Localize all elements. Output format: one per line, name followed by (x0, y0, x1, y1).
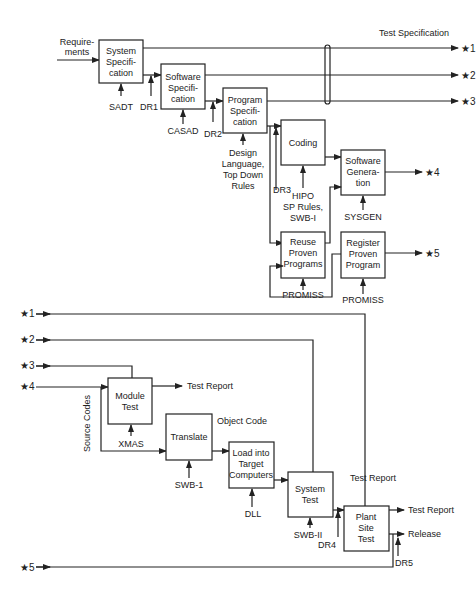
reuse-line3: Programs (283, 259, 323, 269)
module-test-line2: Test (122, 402, 139, 412)
system-test-line1: System (295, 484, 325, 494)
translate-label: Translate (170, 432, 207, 442)
module-test-line1: Module (115, 391, 145, 401)
dr1-label: DR1 (140, 102, 158, 112)
register-line2: Proven (349, 249, 378, 259)
promiss-reuse-label: PROMISS (282, 290, 324, 300)
connector-4-out: ★4 (425, 167, 440, 178)
requirements-label-2: ments (65, 47, 90, 57)
connector-1-out: ★1 (461, 43, 476, 54)
load-line1: Load into (232, 448, 269, 458)
dll-label: DLL (245, 509, 262, 519)
sadt-label: SADT (109, 102, 134, 112)
register-line1: Register (346, 238, 380, 248)
connector-3-in: ★3 (20, 360, 35, 371)
object-code-label: Object Code (217, 416, 267, 426)
promiss-register-label: PROMISS (342, 295, 384, 305)
test-specification-label: Test Specification (379, 28, 449, 38)
connector-5-out: ★5 (425, 248, 440, 259)
system-spec-line3: cation (109, 68, 133, 78)
program-spec-line3: cation (233, 117, 257, 127)
software-lifecycle-diagram: Test Specification Require- ments System… (0, 0, 476, 595)
sw-gen-line2: Genera- (346, 167, 379, 177)
load-line3: Computers (229, 470, 274, 480)
swb2-label: SWB-II (294, 530, 323, 540)
register-line3: Program (346, 260, 381, 270)
module-test-report-label: Test Report (187, 381, 234, 391)
module-test-box[interactable] (108, 378, 152, 424)
coding-label: Coding (289, 138, 318, 148)
sw-gen-line1: Software (345, 156, 381, 166)
dr5-label: DR5 (395, 558, 413, 568)
xmas-label: XMAS (118, 439, 144, 449)
program-spec-line2: Specifi- (230, 106, 260, 116)
release-label: Release (408, 529, 441, 539)
source-codes-label: Source Codes (82, 394, 92, 452)
system-spec-line1: System (106, 46, 136, 56)
hipo-line2: SP Rules, (283, 202, 323, 212)
system-spec-line2: Specifi- (106, 57, 136, 67)
software-spec-line1: Software (165, 72, 201, 82)
system-test-report-label: Test Report (350, 473, 397, 483)
plant-line1: Plant (356, 512, 377, 522)
requirements-label-1: Require- (60, 37, 95, 47)
connector-3-out: ★3 (461, 96, 476, 107)
connector-1-in: ★1 (20, 308, 35, 319)
connector-5-in: ★5 (20, 562, 35, 573)
system-test-line2: Test (302, 495, 319, 505)
plant-test-report-label: Test Report (408, 505, 455, 515)
connector-2-in: ★2 (20, 334, 35, 345)
reuse-to-gen-line (325, 187, 341, 243)
connector-4-in: ★4 (20, 381, 35, 392)
software-spec-line3: cation (171, 94, 195, 104)
reuse-line1: Reuse (290, 237, 316, 247)
design-lang-line3: Top Down (223, 170, 263, 180)
sw-gen-line3: tion (356, 178, 371, 188)
program-spec-line1: Program (228, 95, 263, 105)
plant-line3: Test (358, 534, 375, 544)
dr2-label: DR2 (204, 129, 222, 139)
dr3-label: DR3 (273, 185, 291, 195)
connector-3-to-module-line (36, 366, 132, 378)
load-line2: Target (238, 459, 264, 469)
software-spec-line2: Specifi- (168, 83, 198, 93)
hipo-line1: HIPO (292, 191, 314, 201)
design-lang-line1: Design (229, 148, 257, 158)
dr4-label: DR4 (318, 540, 336, 550)
design-lang-line2: Language, (222, 159, 265, 169)
sysgen-label: SYSGEN (344, 212, 382, 222)
design-lang-line4: Rules (231, 181, 255, 191)
connector-5-to-release-line (36, 534, 393, 567)
plant-line2: Site (358, 523, 374, 533)
swb1-label: SWB-1 (175, 480, 204, 490)
connector-2-out: ★2 (461, 70, 476, 81)
hipo-line3: SWB-I (290, 213, 316, 223)
reuse-line2: Proven (289, 248, 318, 258)
casad-label: CASAD (167, 126, 199, 136)
